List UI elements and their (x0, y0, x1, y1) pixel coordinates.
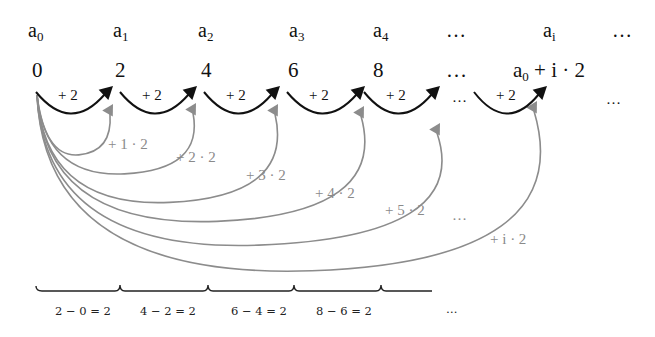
difference-label: 2 − 0 = 2 (55, 306, 111, 318)
step-label: + 2 (142, 88, 162, 103)
term-base: … (612, 19, 632, 41)
term-label: a0 (28, 20, 43, 43)
arithmetic-sequence-diagram: a0a1a2a3a4…ai…02468…a0 + i · 2+ 1 · 2+ 2… (0, 0, 655, 337)
step-ellipsis: … (452, 90, 467, 105)
term-label: ai (543, 20, 556, 43)
term-label: … (612, 20, 632, 40)
differences-ellipsis: … (446, 304, 458, 316)
term-label: a4 (373, 20, 388, 43)
term-label: … (446, 20, 466, 40)
difference-label: 8 − 6 = 2 (316, 306, 372, 318)
cumulative-arc (37, 95, 540, 271)
difference-label: 6 − 4 = 2 (231, 306, 287, 318)
term-base: a (373, 19, 382, 41)
term-subscript: 2 (207, 29, 214, 44)
term-label: a3 (289, 20, 304, 43)
step-label: + 2 (226, 88, 246, 103)
arrowhead-icon (353, 106, 364, 119)
cumulative-step-label: + 5 · 2 (385, 203, 425, 218)
term-base: a (113, 19, 122, 41)
arrowhead-icon (429, 123, 440, 136)
cumulative-step-label: + 4 · 2 (315, 186, 355, 201)
arrowhead-icon (102, 104, 113, 117)
step-label: + 2 (58, 88, 78, 103)
step-label: + 2 (309, 88, 329, 103)
difference-label: 4 − 2 = 2 (140, 306, 196, 318)
cumulative-step-label: + i · 2 (490, 232, 526, 247)
sequence-value: 4 (201, 60, 212, 81)
step-label: + 2 (386, 88, 406, 103)
term-base: a (28, 19, 37, 41)
term-subscript: 4 (382, 29, 389, 44)
term-subscript: i (552, 29, 556, 44)
term-subscript: 1 (122, 29, 129, 44)
sequence-value: 8 (373, 60, 384, 81)
value-prefix: a (513, 58, 522, 82)
term-base: a (289, 19, 298, 41)
sequence-value: 0 (32, 60, 43, 81)
sequence-value: 2 (115, 60, 126, 81)
general-term-value: a0 + i · 2 (513, 60, 585, 83)
cumulative-step-label: + 3 · 2 (246, 168, 286, 183)
term-label: a2 (198, 20, 213, 43)
value-suffix: + i · 2 (529, 58, 585, 82)
arrowhead-icon (185, 103, 196, 116)
term-base: … (446, 19, 466, 41)
term-base: a (198, 19, 207, 41)
difference-brace (36, 285, 432, 291)
step-ellipsis: … (606, 92, 621, 107)
cumulative-arc (37, 95, 278, 203)
cumulative-step-label: + 1 · 2 (108, 137, 148, 152)
arrowhead-icon (267, 104, 278, 117)
sequence-value: 6 (288, 60, 299, 81)
sequence-value: … (446, 60, 467, 81)
term-subscript: 3 (298, 29, 305, 44)
term-subscript: 0 (37, 29, 44, 44)
term-label: a1 (113, 20, 128, 43)
term-base: a (543, 19, 552, 41)
arc-layer (0, 0, 655, 337)
cumulative-arc (37, 95, 194, 174)
cumulative-ellipsis: … (452, 208, 467, 223)
step-label: + 2 (496, 88, 516, 103)
cumulative-step-label: + 2 · 2 (176, 150, 216, 165)
